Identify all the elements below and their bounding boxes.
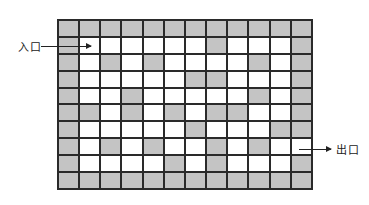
maze-wall-cell — [228, 21, 247, 36]
maze-wall-cell — [59, 139, 78, 154]
maze-path-cell — [101, 38, 120, 53]
maze-wall-cell — [292, 156, 311, 171]
maze-path-cell — [228, 89, 247, 104]
maze-wall-cell — [59, 55, 78, 70]
maze-wall-cell — [101, 55, 120, 70]
maze-path-cell — [228, 38, 247, 53]
maze-wall-cell — [207, 21, 226, 36]
maze-wall-cell — [292, 21, 311, 36]
maze-wall-cell — [59, 173, 78, 188]
maze-wall-cell — [59, 89, 78, 104]
maze-wall-cell — [80, 105, 99, 120]
maze-wall-cell — [228, 173, 247, 188]
maze-wall-cell — [59, 105, 78, 120]
maze-path-cell — [122, 156, 141, 171]
maze-path-cell — [271, 156, 290, 171]
maze-path-cell — [144, 89, 163, 104]
maze-path-cell — [186, 55, 205, 70]
maze-wall-cell — [122, 89, 141, 104]
maze-path-cell — [228, 72, 247, 87]
maze-path-cell — [186, 38, 205, 53]
maze-path-cell — [144, 156, 163, 171]
maze-path-cell — [122, 139, 141, 154]
maze-path-cell — [144, 105, 163, 120]
maze-wall-cell — [249, 139, 268, 154]
maze-path-cell — [101, 72, 120, 87]
maze-wall-cell — [292, 72, 311, 87]
entrance-label: 入口 — [18, 38, 42, 54]
maze-path-cell — [186, 139, 205, 154]
maze-wall-cell — [59, 21, 78, 36]
maze-wall-cell — [59, 72, 78, 87]
maze-path-cell — [249, 122, 268, 137]
maze-path-cell — [80, 156, 99, 171]
maze-path-cell — [228, 139, 247, 154]
maze-wall-cell — [292, 105, 311, 120]
maze-grid — [57, 19, 313, 190]
maze-wall-cell — [144, 55, 163, 70]
maze-path-cell — [228, 55, 247, 70]
maze-wall-cell — [101, 21, 120, 36]
maze-path-cell — [144, 72, 163, 87]
maze-wall-cell — [144, 173, 163, 188]
maze-wall-cell — [207, 105, 226, 120]
maze-wall-cell — [207, 72, 226, 87]
maze-wall-cell — [59, 122, 78, 137]
maze-path-cell — [271, 89, 290, 104]
maze-path-cell — [144, 122, 163, 137]
maze-path-cell — [80, 55, 99, 70]
maze-wall-cell — [144, 21, 163, 36]
maze-wall-cell — [165, 21, 184, 36]
maze-wall-cell — [207, 139, 226, 154]
maze-wall-cell — [101, 139, 120, 154]
maze-path-cell — [165, 55, 184, 70]
exit-arrow — [299, 149, 331, 150]
maze-wall-cell — [207, 156, 226, 171]
maze-wall-cell — [165, 156, 184, 171]
maze-wall-cell — [144, 139, 163, 154]
maze-wall-cell — [122, 21, 141, 36]
maze-wall-cell — [165, 105, 184, 120]
maze-wall-cell — [59, 156, 78, 171]
maze-path-cell — [186, 105, 205, 120]
maze-path-cell — [165, 38, 184, 53]
maze-wall-cell — [80, 21, 99, 36]
maze-path-cell — [101, 122, 120, 137]
maze-wall-cell — [186, 122, 205, 137]
maze-path-cell — [122, 38, 141, 53]
maze-path-cell — [80, 139, 99, 154]
maze-path-cell — [186, 156, 205, 171]
maze-wall-cell — [292, 89, 311, 104]
maze-path-cell — [122, 122, 141, 137]
maze-path-cell — [271, 72, 290, 87]
maze-wall-cell — [207, 173, 226, 188]
maze-wall-cell — [228, 105, 247, 120]
maze-path-cell — [207, 89, 226, 104]
maze-path-cell — [101, 156, 120, 171]
maze-path-cell — [271, 105, 290, 120]
maze-path-cell — [249, 72, 268, 87]
maze-wall-cell — [165, 173, 184, 188]
maze-path-cell — [249, 156, 268, 171]
maze-wall-cell — [186, 72, 205, 87]
maze-path-cell — [186, 89, 205, 104]
maze-path-cell — [228, 156, 247, 171]
maze-path-cell — [271, 38, 290, 53]
maze-path-cell — [207, 122, 226, 137]
maze-path-cell — [144, 38, 163, 53]
maze-path-cell — [165, 72, 184, 87]
maze-wall-cell — [101, 173, 120, 188]
maze-wall-cell — [249, 89, 268, 104]
maze-wall-cell — [186, 173, 205, 188]
maze-wall-cell — [292, 55, 311, 70]
maze-wall-cell — [207, 38, 226, 53]
maze-path-cell — [101, 89, 120, 104]
maze-path-cell — [165, 89, 184, 104]
maze-wall-cell — [249, 55, 268, 70]
maze-wall-cell — [271, 122, 290, 137]
entrance-arrow — [41, 46, 91, 47]
maze-path-cell — [271, 55, 290, 70]
maze-wall-cell — [249, 21, 268, 36]
maze-wall-cell — [186, 21, 205, 36]
maze-wall-cell — [292, 122, 311, 137]
